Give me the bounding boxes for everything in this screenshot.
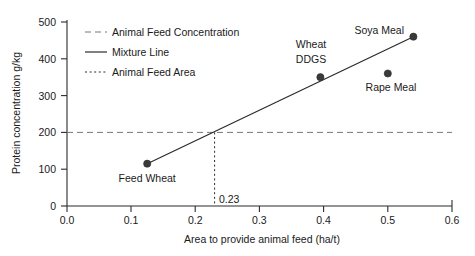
x-tick-label-0.0: 0.0 xyxy=(60,214,75,226)
x-tick-label-0.3: 0.3 xyxy=(252,214,267,226)
point-label-feed-wheat: Feed Wheat xyxy=(119,172,176,184)
point-label-soya-meal: Soya Meal xyxy=(354,24,404,36)
point-label-wheat: Wheat xyxy=(296,38,326,50)
x-tick-label-0.2: 0.2 xyxy=(188,214,203,226)
chart-canvas: 500 400 300 200 100 0 0.0 0.1 0.2 0.3 0.… xyxy=(0,0,475,256)
x-tick-label-0.6: 0.6 xyxy=(445,214,460,226)
data-point-feed-wheat xyxy=(144,160,151,167)
protein-concentration-chart: 500 400 300 200 100 0 0.0 0.1 0.2 0.3 0.… xyxy=(0,0,475,256)
x-tick-label-0.5: 0.5 xyxy=(380,214,395,226)
x-axis-ticks: 0.0 0.1 0.2 0.3 0.4 0.5 0.6 xyxy=(60,206,460,226)
data-point-rape-meal xyxy=(384,70,391,77)
y-tick-label-200: 200 xyxy=(38,126,56,138)
point-label-rape-meal: Rape Meal xyxy=(366,81,417,93)
x-axis-title: Area to provide animal feed (ha/t) xyxy=(184,233,340,245)
x-tick-label-0.4: 0.4 xyxy=(316,214,331,226)
data-point-wheat-ddgs xyxy=(317,74,324,81)
mixture-line xyxy=(147,37,413,164)
legend-label-animal-feed-area: Animal Feed Area xyxy=(112,66,196,78)
y-tick-label-500: 500 xyxy=(38,16,56,28)
point-label-ddgs: DDGS xyxy=(296,53,326,65)
y-axis-title: Protein concentration g/kg xyxy=(10,52,22,174)
data-point-soya-meal xyxy=(410,33,417,40)
y-tick-label-0: 0 xyxy=(50,200,56,212)
y-tick-label-300: 300 xyxy=(38,90,56,102)
y-tick-label-400: 400 xyxy=(38,53,56,65)
legend-label-animal-feed-concentration: Animal Feed Concentration xyxy=(112,26,239,38)
legend-label-mixture-line: Mixture Line xyxy=(112,46,169,58)
intersection-value-label: 0.23 xyxy=(219,193,240,205)
chart-legend: Animal Feed Concentration Mixture Line A… xyxy=(85,26,239,78)
y-tick-label-100: 100 xyxy=(38,163,56,175)
x-tick-label-0.1: 0.1 xyxy=(124,214,139,226)
y-axis-ticks: 500 400 300 200 100 0 xyxy=(38,16,67,212)
